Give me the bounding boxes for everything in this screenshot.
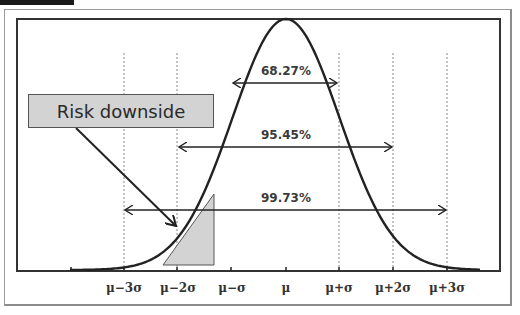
tick-label-minus2: μ−2σ [160, 281, 196, 295]
risk-downside-callout: Risk downside [28, 94, 214, 128]
plot-area [17, 19, 500, 271]
tick-label-plus1: μ+σ [325, 281, 353, 295]
tick-label-plus3: μ+3σ [429, 281, 465, 295]
tick-label-mean: μ [282, 281, 291, 295]
tick-label-minus3: μ−3σ [106, 281, 142, 295]
pct-label-68: 68.27% [261, 64, 311, 78]
pct-label-95: 95.45% [261, 128, 311, 142]
tick-label-minus1: μ−σ [218, 281, 246, 295]
normal-distribution-chart: 68.27% 95.45% 99.73% μ−3σ μ−2σ μ−σ μ μ+σ… [0, 0, 520, 315]
tick-label-plus2: μ+2σ [375, 281, 411, 295]
pct-label-99: 99.73% [261, 191, 311, 205]
